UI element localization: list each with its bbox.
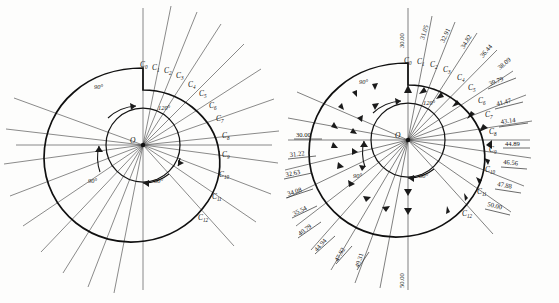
- left-c11-sub: 11: [217, 196, 222, 202]
- right-point-labels: C0 C1 C2 C3 C4 C5 C6 C7 C8 C9 C10 C11 C1…: [404, 56, 497, 219]
- right-c7-sub: 7: [490, 114, 493, 120]
- left-c1-sub: 1: [157, 67, 160, 73]
- svg-text:C11: C11: [212, 192, 222, 202]
- right-angle-60: 60°: [419, 172, 428, 179]
- left-angle-60: 60°: [154, 177, 163, 184]
- right-c4-sub: 4: [462, 77, 465, 83]
- dim-value-36-44: 36.44: [478, 42, 493, 58]
- svg-text:C11: C11: [477, 187, 487, 197]
- svg-text:C12: C12: [462, 209, 472, 219]
- svg-text:C8: C8: [489, 127, 497, 137]
- left-angle-90-upper: 90°: [94, 83, 103, 90]
- dim-value-50-00-bottom: 50.00: [398, 272, 405, 288]
- svg-text:C4: C4: [457, 73, 465, 83]
- dim-value-32-91: 32.91: [439, 27, 452, 43]
- right-c0-sub: 0: [409, 60, 412, 66]
- svg-text:C2: C2: [164, 66, 172, 76]
- dim-value-30-00-left: 30.00: [296, 131, 312, 138]
- svg-text:C2: C2: [430, 60, 438, 70]
- right-origin-dot: [406, 138, 410, 142]
- svg-text:C3: C3: [443, 65, 451, 75]
- dim-value-38-09: 38.09: [496, 55, 512, 70]
- svg-text:C7: C7: [216, 114, 224, 124]
- svg-text:C7: C7: [485, 110, 493, 120]
- dim-value-47-88: 47.88: [497, 180, 514, 190]
- right-angle-90-lower: 90°: [353, 172, 362, 179]
- right-c9-sub: 9: [494, 149, 497, 155]
- svg-text:C10: C10: [485, 165, 495, 175]
- svg-text:C4: C4: [188, 80, 196, 90]
- dim-value-30-00-top: 30.00: [398, 32, 405, 48]
- svg-text:C9: C9: [489, 145, 497, 155]
- left-c0-sub: 0: [145, 64, 148, 70]
- dim-value-31-22: 31.22: [289, 149, 305, 158]
- diagram-svg: 90° 120° 90° 60° O C0 C1 C2 C3 C4 C5 C6 …: [0, 0, 559, 303]
- left-c5-sub: 5: [204, 93, 207, 99]
- svg-text:C5: C5: [199, 89, 207, 99]
- svg-text:C0: C0: [404, 56, 412, 66]
- left-panel: 90° 120° 90° 60° O C0 C1 C2 C3 C4 C5 C6 …: [4, 6, 279, 293]
- svg-text:C6: C6: [478, 96, 486, 106]
- left-c6-sub: 6: [214, 105, 217, 111]
- svg-text:C10: C10: [219, 170, 229, 180]
- left-c10-sub: 10: [224, 174, 230, 180]
- svg-text:C6: C6: [209, 101, 217, 111]
- svg-text:C12: C12: [198, 213, 208, 223]
- left-c9-sub: 9: [227, 154, 230, 160]
- svg-text:C3: C3: [176, 71, 184, 81]
- svg-text:C8: C8: [222, 131, 230, 141]
- left-angle-90-lower: 90°: [88, 177, 97, 184]
- right-angle-90-upper: 90°: [359, 78, 368, 85]
- right-angle-120: 120°: [423, 99, 436, 106]
- left-c12-sub: 12: [203, 217, 209, 223]
- dim-value-34-82: 34.82: [459, 33, 473, 49]
- svg-text:C1: C1: [152, 63, 159, 73]
- right-c12-sub: 12: [467, 213, 473, 219]
- svg-text:C5: C5: [468, 83, 476, 93]
- right-origin-label: O: [395, 131, 401, 140]
- dim-value-44-89: 44.89: [505, 140, 521, 147]
- left-c4-sub: 4: [193, 84, 196, 90]
- left-angle-120: 120°: [158, 104, 171, 111]
- dim-value-35-54: 35.54: [291, 204, 308, 217]
- right-c1-sub: 1: [422, 61, 425, 67]
- dim-value-49-31: 49.31: [353, 252, 364, 268]
- svg-text:C0: C0: [140, 60, 148, 70]
- svg-text:C1: C1: [417, 57, 424, 67]
- figure-canvas: 90° 120° 90° 60° O C0 C1 C2 C3 C4 C5 C6 …: [0, 0, 559, 303]
- right-panel: 90° 120° 90° 60° O C0 C1 C2 C3 C4 C5 C6 …: [284, 8, 532, 290]
- right-c5-sub: 5: [473, 87, 476, 93]
- left-c3-sub: 3: [181, 75, 184, 81]
- right-c8-sub: 8: [494, 131, 497, 137]
- right-c2-sub: 2: [435, 64, 438, 70]
- dim-value-39-79: 39.79: [488, 75, 505, 87]
- left-c7-sub: 7: [221, 118, 224, 124]
- left-origin-label: O: [130, 136, 136, 145]
- dim-value-50-00-right: 50.00: [487, 200, 504, 211]
- svg-text:C9: C9: [222, 150, 230, 160]
- left-construction-rays: [4, 6, 279, 293]
- right-c11-sub: 11: [482, 191, 487, 197]
- left-origin-dot: [141, 143, 145, 147]
- right-c10-sub: 10: [490, 169, 496, 175]
- right-c6-sub: 6: [483, 100, 486, 106]
- dim-value-46-56: 46.56: [503, 158, 519, 167]
